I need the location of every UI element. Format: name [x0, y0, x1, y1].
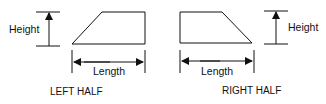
right-half-figure: Height Length RIGHT HALF [180, 11, 318, 96]
left-half-trapezoid [72, 12, 145, 44]
right-half-trapezoid [180, 12, 252, 43]
left-length-label: Length [93, 65, 125, 77]
right-height-label: Height [288, 21, 318, 33]
left-height-label: Height [9, 23, 39, 35]
half-shapes-diagram: Height Length LEFT HALF Height Length RI… [0, 0, 326, 104]
right-half-caption: RIGHT HALF [222, 85, 281, 96]
left-half-caption: LEFT HALF [50, 86, 103, 97]
left-half-figure: Height Length LEFT HALF [9, 12, 145, 97]
right-length-label: Length [201, 65, 233, 77]
